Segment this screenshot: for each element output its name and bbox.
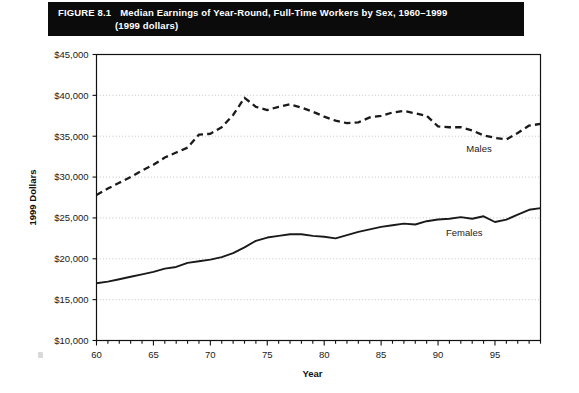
y-tick-label: $35,000 [54, 131, 88, 142]
y-tick-label: $10,000 [54, 335, 88, 346]
x-axis-tick-labels: 6065707580859095 [91, 349, 500, 360]
earnings-line-chart: $10,000$15,000$20,000$25,000$30,000$35,0… [0, 0, 579, 393]
page-artifact [38, 352, 43, 358]
series-line-females [97, 208, 541, 283]
y-tick-label: $45,000 [54, 49, 88, 60]
y-axis-tick-labels: $10,000$15,000$20,000$25,000$30,000$35,0… [54, 49, 88, 346]
x-tick-label: 85 [376, 349, 387, 360]
series-label-females: Females [446, 227, 483, 238]
series-inline-labels: MalesFemales [446, 143, 492, 238]
x-axis-ticks [97, 341, 541, 346]
y-axis-title: 1999 Dollars [27, 170, 38, 226]
series-label-males: Males [466, 143, 492, 154]
x-axis-title: Year [302, 368, 322, 379]
x-tick-label: 60 [91, 349, 102, 360]
x-tick-label: 90 [433, 349, 444, 360]
plot-frame [97, 55, 541, 341]
figure-container: FIGURE 8.1Median Earnings of Year-Round,… [0, 0, 579, 393]
x-tick-label: 95 [490, 349, 501, 360]
x-tick-label: 75 [262, 349, 273, 360]
y-tick-label: $40,000 [54, 90, 88, 101]
grid-lines [97, 55, 541, 300]
data-series [97, 98, 541, 283]
x-tick-label: 70 [205, 349, 216, 360]
x-tick-label: 65 [148, 349, 159, 360]
y-tick-label: $25,000 [54, 212, 88, 223]
y-tick-label: $30,000 [54, 171, 88, 182]
y-tick-label: $20,000 [54, 253, 88, 264]
y-tick-label: $15,000 [54, 294, 88, 305]
x-tick-label: 80 [319, 349, 330, 360]
